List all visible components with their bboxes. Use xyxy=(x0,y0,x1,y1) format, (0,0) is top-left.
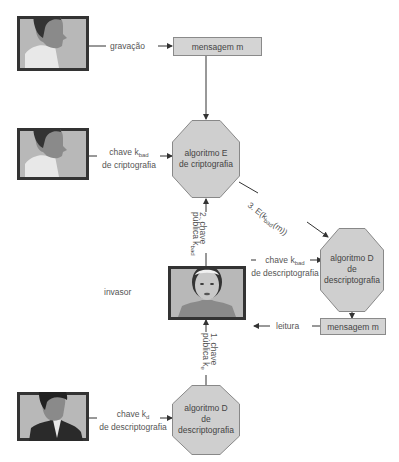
edge-label-recording: gravação xyxy=(110,41,145,51)
encrypt-algorithm-octagon: algoritmo E de criptografia xyxy=(172,120,240,198)
receiver-portrait xyxy=(17,392,89,441)
edge-label-step2-key: pública kbad xyxy=(188,212,201,256)
sender-portrait-top xyxy=(17,16,89,71)
edge-label-intruder-decrypt-key: chave kbad de descriptografia xyxy=(249,255,321,278)
edge-label-reading: leitura xyxy=(276,321,299,331)
message-box-top: mensagem m xyxy=(173,37,262,56)
message-box-bottom: mensagem m xyxy=(320,318,386,335)
woman-portrait-icon xyxy=(168,266,246,320)
receiver-decrypt-algorithm-octagon: algoritmo D de descriptografia xyxy=(172,385,240,455)
man-profile-icon xyxy=(17,16,89,71)
edge-label-encrypt-key: chave kbad de criptografia xyxy=(97,147,161,170)
intruder-label: invasor xyxy=(104,287,131,297)
man-suit-icon xyxy=(17,392,89,441)
edge-label-step1-key: pública ke xyxy=(198,333,211,370)
intruder-portrait xyxy=(168,266,246,320)
intruder-decrypt-algorithm-octagon: algoritmo D de descriptografia xyxy=(320,228,384,312)
sender-portrait-encrypt xyxy=(17,128,89,180)
edge-label-receiver-decrypt-key: chave kd de descriptografia xyxy=(96,409,170,432)
man-profile-icon xyxy=(17,128,89,180)
